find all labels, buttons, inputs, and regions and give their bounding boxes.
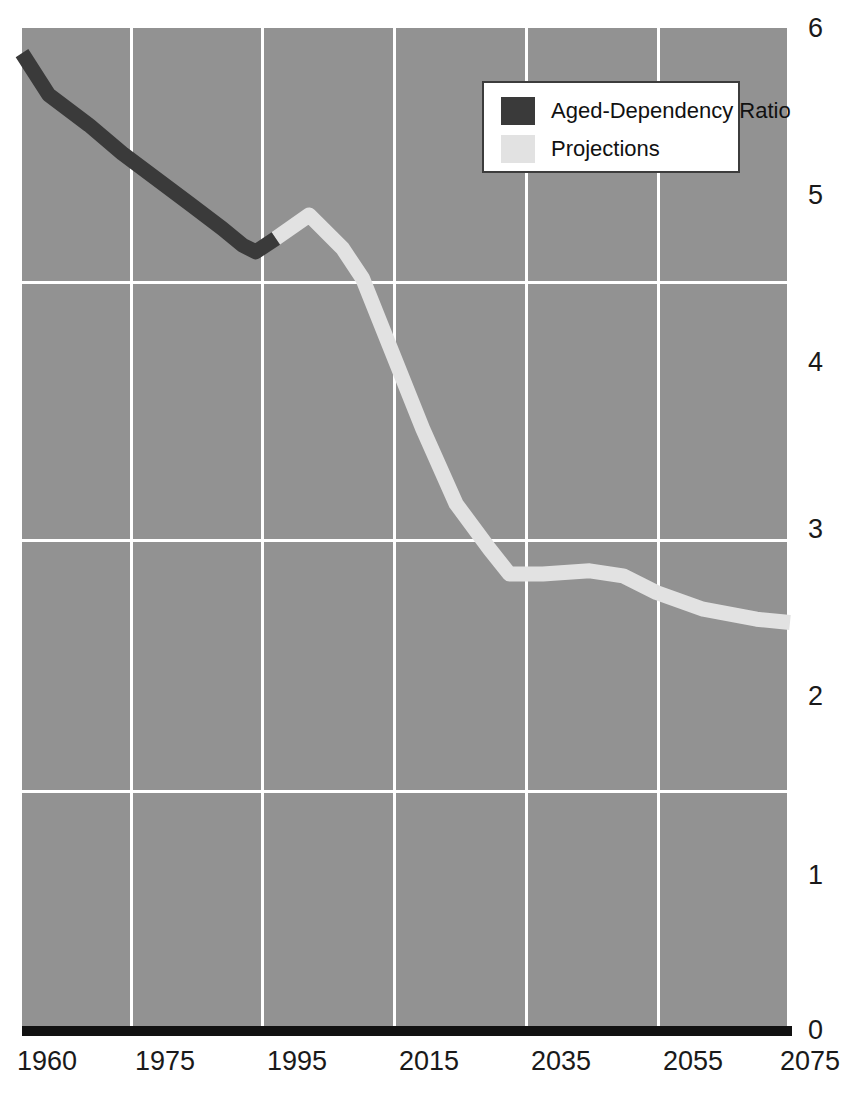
y-tick-label-3: 3	[808, 514, 823, 545]
y-tick-label-4: 4	[808, 347, 823, 378]
legend-label-historical: Aged-Dependency Ratio	[551, 98, 791, 124]
y-tick-label-5: 5	[808, 180, 823, 211]
legend-swatch-historical	[501, 97, 535, 125]
legend-item-projections: Projections	[484, 130, 738, 168]
y-tick-label-6: 6	[808, 13, 823, 44]
y-tick-label-0: 0	[808, 1015, 823, 1046]
x-tick-label-1: 1975	[135, 1046, 195, 1077]
chart-root: Aged-Dependency Ratio Projections 1960 1…	[0, 0, 849, 1112]
legend-item-historical: Aged-Dependency Ratio	[484, 92, 738, 130]
legend-swatch-projections	[501, 135, 535, 163]
x-tick-label-5: 2055	[663, 1046, 723, 1077]
x-axis-rule	[22, 1026, 792, 1036]
x-tick-label-0: 1960	[17, 1046, 77, 1077]
y-tick-label-1: 1	[808, 860, 823, 891]
x-tick-label-3: 2015	[399, 1046, 459, 1077]
series-line-projections	[276, 215, 790, 623]
series-line-aged-dependency-ratio	[22, 53, 276, 252]
x-tick-label-6: 2075	[780, 1046, 840, 1077]
y-tick-label-2: 2	[808, 681, 823, 712]
legend-label-projections: Projections	[551, 136, 660, 162]
x-tick-label-4: 2035	[531, 1046, 591, 1077]
plot-area: Aged-Dependency Ratio Projections	[22, 28, 790, 1030]
x-tick-label-2: 1995	[267, 1046, 327, 1077]
series-layer	[22, 28, 790, 1030]
legend: Aged-Dependency Ratio Projections	[482, 81, 740, 173]
